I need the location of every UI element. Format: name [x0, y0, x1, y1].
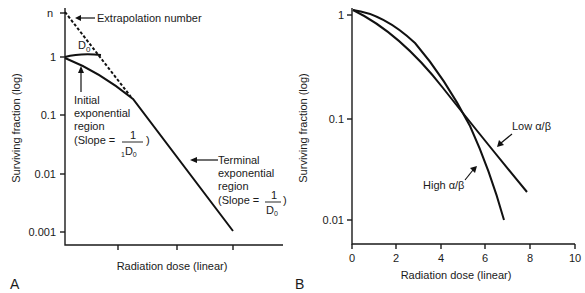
svg-text:Initial: Initial [74, 94, 100, 106]
panel-a: n 1 0.1 0.01 0.001 Surviving fraction (l… [10, 7, 287, 292]
svg-text:D0: D0 [266, 204, 278, 217]
panel-a-xlabel: Radiation dose (linear) [117, 260, 228, 272]
panel-b-low-label: Low α/β [512, 120, 551, 132]
svg-text:(Slope =: (Slope = [74, 134, 115, 146]
panel-a-ylabel: Surviving fraction (log) [10, 73, 22, 182]
panel-b-ytick-label-0.1: 0.1 [329, 113, 344, 125]
svg-text:1: 1 [271, 189, 277, 201]
panel-a-ytick-label-0.001: 0.001 [28, 226, 56, 238]
panel-a-d0-label: D0 [78, 39, 91, 54]
svg-text:Terminal: Terminal [218, 154, 260, 166]
panel-b-xtick-label-8: 8 [527, 252, 533, 264]
panel-b: 1 0.1 0.01 0 2 4 6 8 10 Surviving fracti… [295, 8, 581, 292]
panel-a-d0-segment [65, 54, 101, 57]
panel-a-ytick-label-0.01: 0.01 [35, 168, 56, 180]
svg-text:): ) [283, 194, 287, 206]
panel-b-xtick-label-4: 4 [438, 252, 444, 264]
panel-a-terminal-annotation: Terminal exponential region (Slope = 1 D… [218, 154, 287, 217]
panel-b-xtick-label-10: 10 [569, 252, 581, 264]
panel-a-label: A [10, 276, 20, 292]
panel-b-xtick-label-2: 2 [393, 252, 399, 264]
svg-text:): ) [146, 134, 150, 146]
panel-a-extrapolation-label: Extrapolation number [97, 12, 202, 24]
panel-a-initial-annotation: Initial exponential region (Slope = 1 1D… [74, 94, 150, 158]
panel-b-low-alpha-beta-curve [353, 10, 527, 192]
figure: n 1 0.1 0.01 0.001 Surviving fraction (l… [0, 0, 585, 293]
panel-a-ytick-label-1: 1 [50, 51, 56, 63]
panel-a-ytick-label-n: n [47, 7, 53, 19]
svg-text:(Slope =: (Slope = [218, 194, 259, 206]
panel-b-ytick-label-1: 1 [338, 9, 344, 21]
panel-a-ytick-label-0.1: 0.1 [41, 109, 56, 121]
svg-text:region: region [74, 120, 105, 132]
panel-b-xtick-label-0: 0 [349, 252, 355, 264]
svg-text:exponential: exponential [218, 167, 274, 179]
arrowhead-icon [75, 15, 81, 21]
svg-text:exponential: exponential [74, 107, 130, 119]
panel-b-ytick-label-0.01: 0.01 [323, 214, 344, 226]
panel-b-xlabel: Radiation dose (linear) [401, 269, 512, 281]
panel-b-xtick-label-6: 6 [482, 252, 488, 264]
arrowhead-icon [190, 157, 197, 163]
panel-b-high-label: High α/β [423, 179, 464, 191]
panel-b-label: B [295, 276, 304, 292]
svg-text:1: 1 [130, 129, 136, 141]
svg-text:region: region [218, 180, 249, 192]
panel-b-ylabel: Surviving fraction (log) [297, 73, 309, 182]
svg-text:1D0: 1D0 [121, 145, 137, 158]
